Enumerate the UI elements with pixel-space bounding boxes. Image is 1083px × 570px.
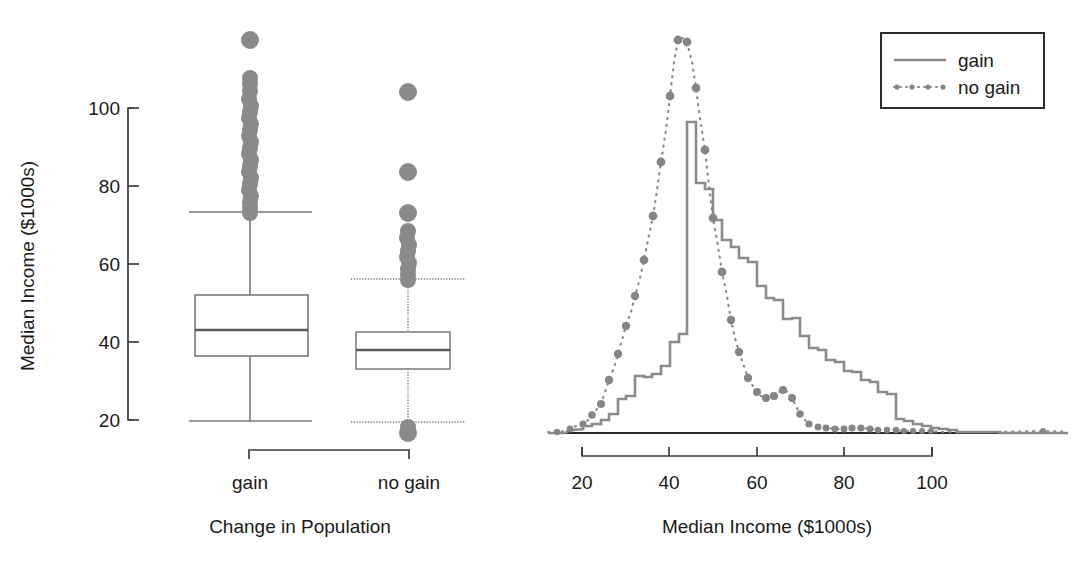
y-axis-label: Median Income ($1000s) xyxy=(17,161,38,371)
category-label-gain: gain xyxy=(232,472,268,493)
x-axis-label-right: Median Income ($1000s) xyxy=(662,516,872,537)
legend-label-gain: gain xyxy=(958,50,994,71)
y-tick-label-40: 40 xyxy=(99,332,120,353)
x-tick-label-40: 40 xyxy=(658,472,679,493)
gain-box xyxy=(195,295,308,356)
legend-label-no-gain: no gain xyxy=(958,77,1020,98)
y-tick-label-100: 100 xyxy=(88,98,120,119)
y-tick-label-20: 20 xyxy=(99,410,120,431)
x-tick-label-20: 20 xyxy=(571,472,592,493)
x-tick-label-60: 60 xyxy=(746,472,767,493)
category-label-no-gain: no gain xyxy=(378,472,440,493)
x-tick-label-80: 80 xyxy=(833,472,854,493)
y-tick-label-60: 60 xyxy=(99,254,120,275)
legend: gain no gain xyxy=(881,33,1044,108)
x-axis-label-left: Change in Population xyxy=(209,516,391,537)
figure-svg: Median Income ($1000s) 100 80 60 40 20 xyxy=(0,0,1083,570)
y-tick-label-80: 80 xyxy=(99,176,120,197)
statistical-figure: Median Income ($1000s) 100 80 60 40 20 xyxy=(0,0,1083,570)
x-tick-label-100: 100 xyxy=(916,472,948,493)
